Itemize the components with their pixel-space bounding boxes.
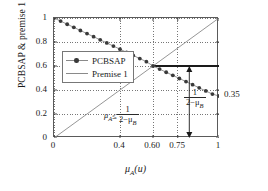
legend-label: PCBSAP (88, 56, 126, 66)
legend-item-pcbsap: PCBSAP (66, 54, 128, 67)
x-tick-label: 0.75 (157, 141, 197, 150)
y-tick-label: 0.8 (7, 37, 47, 46)
x-axis-title: μA(u) (53, 163, 218, 177)
x-tick-label: 0 (33, 141, 73, 150)
y-tick-label: 0.6 (7, 61, 47, 70)
y-tick-label: 1 (7, 13, 47, 22)
arrow-measure-fraction: 12−μB (184, 88, 206, 109)
chart-legend: PCBSAP Premise 1 (62, 51, 134, 83)
legend-label: Premise 1 (88, 69, 128, 79)
arrow-measure-annotation: 12−μB (184, 88, 206, 109)
legend-marker-pcbsap-icon (66, 56, 88, 66)
legend-item-premise-1: Premise 1 (66, 67, 128, 80)
legend-line-premise-icon (66, 69, 88, 79)
y-tick-label: 0.2 (7, 109, 47, 118)
y-tick-label: 0.4 (7, 85, 47, 94)
inequality-fraction: 12−μB (117, 105, 139, 126)
x-tick-label: 1 (198, 141, 238, 150)
inequality-annotation: μA≤12−μB (104, 105, 139, 126)
chart-figure: PCBSAP & premise 1 1 0.8 0.6 0.4 0.2 0 0… (0, 0, 268, 191)
right-value-annotation: 0.35 (224, 89, 240, 99)
